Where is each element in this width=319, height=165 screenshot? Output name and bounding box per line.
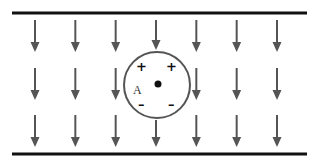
arrow-head bbox=[71, 90, 80, 100]
arrow-head bbox=[71, 137, 80, 147]
field-arrow-c4-r1 bbox=[152, 20, 161, 50]
field-arrow-c4-r3 bbox=[152, 120, 161, 147]
field-arrow-c7-r3 bbox=[273, 115, 282, 147]
positive-charge-left: + bbox=[136, 59, 147, 74]
field-arrow-c2-r1 bbox=[71, 20, 80, 52]
arrow-head bbox=[192, 42, 201, 52]
conductor-sphere: + + – – A bbox=[124, 52, 190, 118]
arrow-head bbox=[152, 137, 161, 147]
field-arrow-c1-r3 bbox=[31, 115, 40, 147]
field-arrow-c5-r1 bbox=[192, 20, 201, 52]
field-arrow-c6-r2 bbox=[232, 68, 241, 100]
arrow-head bbox=[273, 42, 282, 52]
arrow-head bbox=[232, 90, 241, 100]
arrow-head bbox=[273, 90, 282, 100]
sphere-label: A bbox=[133, 83, 142, 97]
arrow-head bbox=[31, 42, 40, 52]
field-arrow-c5-r2 bbox=[192, 68, 201, 100]
arrow-head bbox=[232, 137, 241, 147]
arrow-head bbox=[71, 42, 80, 52]
field-arrow-c3-r3 bbox=[111, 115, 120, 147]
arrow-head bbox=[232, 42, 241, 52]
arrow-head bbox=[111, 137, 120, 147]
negative-charge-right: – bbox=[168, 97, 175, 112]
arrow-head bbox=[111, 90, 120, 100]
field-arrow-c2-r2 bbox=[71, 68, 80, 100]
center-dot bbox=[155, 81, 162, 88]
arrow-head bbox=[152, 40, 161, 50]
field-arrow-c7-r1 bbox=[273, 20, 282, 52]
field-arrow-c5-r3 bbox=[192, 115, 201, 147]
field-arrow-c1-r2 bbox=[31, 68, 40, 100]
field-arrow-c3-r2 bbox=[111, 68, 120, 100]
field-arrow-c6-r3 bbox=[232, 115, 241, 147]
field-arrow-c6-r1 bbox=[232, 20, 241, 52]
positive-charge-right: + bbox=[166, 59, 177, 74]
field-arrow-c2-r3 bbox=[71, 115, 80, 147]
arrow-head bbox=[273, 137, 282, 147]
negative-charge-left: – bbox=[138, 97, 145, 112]
field-arrow-c1-r1 bbox=[31, 20, 40, 52]
field-arrow-c3-r1 bbox=[111, 20, 120, 52]
arrow-head bbox=[192, 137, 201, 147]
arrow-head bbox=[192, 90, 201, 100]
arrow-head bbox=[111, 42, 120, 52]
arrow-head bbox=[31, 137, 40, 147]
electric-field-diagram: + + – – A bbox=[0, 0, 319, 165]
arrow-head bbox=[31, 90, 40, 100]
field-arrow-c7-r2 bbox=[273, 68, 282, 100]
